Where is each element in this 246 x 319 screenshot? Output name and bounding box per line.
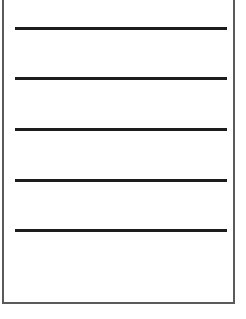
ruled-line-4 bbox=[15, 179, 227, 182]
lined-sheet bbox=[2, 0, 235, 304]
ruled-line-5 bbox=[15, 229, 227, 232]
ruled-line-1 bbox=[15, 27, 227, 30]
ruled-line-3 bbox=[15, 128, 227, 131]
ruled-line-2 bbox=[15, 77, 227, 80]
